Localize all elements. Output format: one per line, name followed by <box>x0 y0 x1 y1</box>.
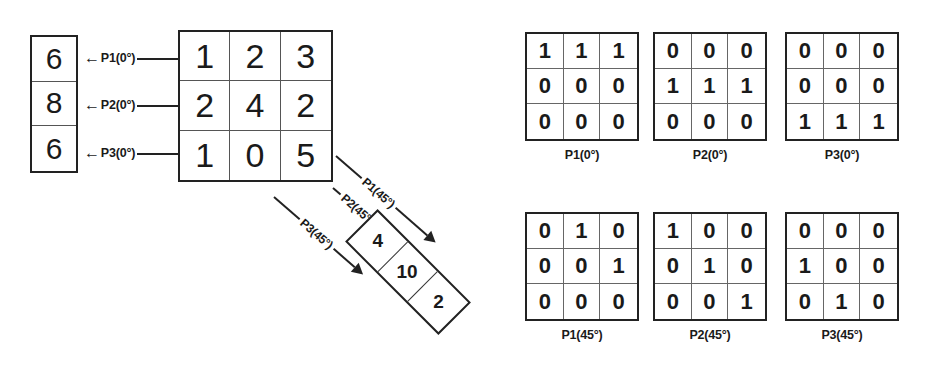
binary-cell: 0 <box>728 34 765 69</box>
arrow-tail <box>273 196 300 220</box>
matrix-cell: 2 <box>230 32 280 81</box>
binary-cell: 0 <box>692 34 729 69</box>
binary-cell: 0 <box>787 284 824 319</box>
binary-cell: 0 <box>728 104 765 139</box>
binary-cell: 1 <box>564 34 601 69</box>
binary-cell: 1 <box>527 34 564 69</box>
matrix-cell: 4 <box>230 81 280 130</box>
binary-cell: 0 <box>787 69 824 104</box>
binary-cell: 0 <box>564 69 601 104</box>
matrix-cell: 5 <box>281 131 331 180</box>
binary-cell: 0 <box>728 249 765 284</box>
binary-cell: 0 <box>824 34 861 69</box>
matrix-cell: 2 <box>180 81 230 130</box>
matrix-cell: 3 <box>281 32 331 81</box>
binary-cell: 0 <box>655 284 692 319</box>
binary-cell: 0 <box>527 249 564 284</box>
rotated-vector-value: 4 <box>372 230 383 252</box>
binary-cell: 0 <box>860 214 897 249</box>
binary-matrix-label-p2-0deg: P2(0°) <box>653 148 767 162</box>
binary-cell: 0 <box>600 214 637 249</box>
binary-matrix-label-p3-0deg: P3(0°) <box>785 148 899 162</box>
input-image-matrix: 1 2 3 2 4 2 1 0 5 <box>178 30 333 182</box>
binary-cell: 1 <box>655 69 692 104</box>
binary-cell: 0 <box>600 69 637 104</box>
binary-cell: 1 <box>824 284 861 319</box>
arrow-label-p1-0deg: P1(0°) <box>101 51 135 65</box>
binary-matrix-p1-0deg: 1 1 1 0 0 0 0 0 0 <box>525 32 639 141</box>
binary-cell: 1 <box>692 249 729 284</box>
arrow-tail <box>137 58 178 60</box>
binary-cell: 0 <box>564 284 601 319</box>
binary-matrix-p3-0deg: 0 0 0 0 0 0 1 1 1 <box>785 32 899 141</box>
matrix-cell: 2 <box>281 81 331 130</box>
binary-cell: 0 <box>527 214 564 249</box>
binary-cell: 0 <box>728 214 765 249</box>
binary-cell: 0 <box>527 284 564 319</box>
binary-cell: 0 <box>600 284 637 319</box>
binary-cell: 0 <box>860 69 897 104</box>
binary-cell: 0 <box>692 214 729 249</box>
binary-matrix-p3-45deg: 0 0 0 1 0 0 0 1 0 <box>785 212 899 321</box>
binary-cell: 0 <box>564 249 601 284</box>
left-arrowhead-icon: ← <box>84 97 100 113</box>
arrow-label-p3-0deg: P3(0°) <box>101 146 135 160</box>
binary-cell: 0 <box>564 104 601 139</box>
binary-matrix-p2-45deg: 1 0 0 0 1 0 0 0 1 <box>653 212 767 321</box>
matrix-cell: 1 <box>180 32 230 81</box>
binary-cell: 1 <box>600 34 637 69</box>
binary-cell: 0 <box>527 69 564 104</box>
binary-cell: 1 <box>728 284 765 319</box>
binary-cell: 0 <box>600 104 637 139</box>
arrow-tail <box>137 153 178 155</box>
source-vector-cell: 6 <box>32 126 76 171</box>
arrow-label-p2-0deg: P2(0°) <box>101 98 135 112</box>
binary-cell: 0 <box>787 34 824 69</box>
binary-cell: 0 <box>860 284 897 319</box>
binary-cell: 1 <box>787 249 824 284</box>
binary-matrix-p2-0deg: 0 0 0 1 1 1 0 0 0 <box>653 32 767 141</box>
binary-matrix-p1-45deg: 0 1 0 0 0 1 0 0 0 <box>525 212 639 321</box>
arrow-tail <box>333 248 355 268</box>
arrow-tail <box>137 105 178 107</box>
binary-cell: 0 <box>692 104 729 139</box>
binary-cell: 0 <box>655 249 692 284</box>
binary-cell: 1 <box>600 249 637 284</box>
binary-matrix-label-p1-45deg: P1(45°) <box>525 328 639 342</box>
matrix-cell: 1 <box>180 131 230 180</box>
arrow-p3-0deg: ← P3(0°) <box>84 143 178 163</box>
rotated-vector-value: 2 <box>433 291 444 313</box>
binary-cell: 0 <box>655 104 692 139</box>
arrow-p2-0deg: ← P2(0°) <box>84 95 178 115</box>
binary-matrix-label-p1-0deg: P1(0°) <box>525 148 639 162</box>
binary-cell: 0 <box>527 104 564 139</box>
left-arrowhead-icon: ← <box>84 145 100 161</box>
source-vector-cell: 6 <box>32 37 76 82</box>
binary-cell: 0 <box>824 214 861 249</box>
arrow-label-p3-45deg: P3(45°) <box>295 214 338 254</box>
source-vector-cell: 8 <box>32 82 76 127</box>
binary-cell: 0 <box>824 69 861 104</box>
binary-cell: 1 <box>860 104 897 139</box>
binary-cell: 1 <box>787 104 824 139</box>
binary-matrix-label-p3-45deg: P3(45°) <box>785 328 899 342</box>
binary-cell: 1 <box>655 214 692 249</box>
binary-cell: 0 <box>860 34 897 69</box>
rotated-vector-value: 10 <box>397 261 418 283</box>
binary-cell: 1 <box>692 69 729 104</box>
binary-matrix-label-p2-45deg: P2(45°) <box>653 328 767 342</box>
binary-cell: 0 <box>787 214 824 249</box>
binary-cell: 1 <box>728 69 765 104</box>
binary-cell: 1 <box>564 214 601 249</box>
binary-cell: 0 <box>692 284 729 319</box>
binary-cell: 0 <box>655 34 692 69</box>
binary-cell: 0 <box>860 249 897 284</box>
binary-cell: 0 <box>824 249 861 284</box>
arrow-tail <box>335 155 362 179</box>
source-projection-vector: 6 8 6 <box>30 35 78 173</box>
arrow-p1-0deg: ← P1(0°) <box>84 48 178 68</box>
matrix-cell: 0 <box>230 131 280 180</box>
left-arrowhead-icon: ← <box>84 50 100 66</box>
binary-cell: 1 <box>824 104 861 139</box>
